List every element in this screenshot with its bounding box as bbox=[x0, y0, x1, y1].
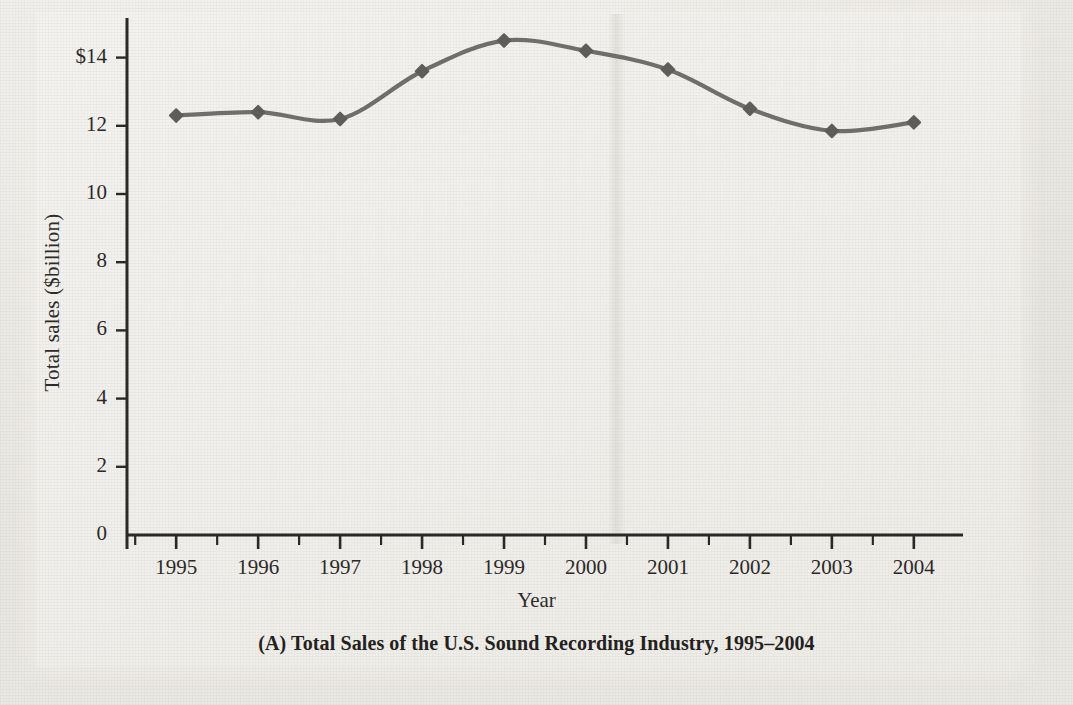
x-axis-title: Year bbox=[0, 588, 1073, 613]
data-point-marker bbox=[826, 125, 838, 137]
y-axis-ticks bbox=[116, 58, 127, 467]
data-point-marker bbox=[908, 116, 920, 128]
y-tick-label: 8 bbox=[7, 248, 107, 273]
y-tick-label: $14 bbox=[7, 44, 107, 69]
line-chart: Total sales ($billion) Year $14121086420… bbox=[0, 0, 1073, 705]
data-point-marker bbox=[252, 106, 264, 118]
y-tick-label: 12 bbox=[7, 112, 107, 137]
data-point-marker bbox=[498, 34, 510, 46]
y-tick-label: 6 bbox=[7, 316, 107, 341]
data-point-marker bbox=[662, 63, 674, 75]
y-tick-label: 4 bbox=[7, 385, 107, 410]
data-point-marker bbox=[580, 45, 592, 57]
data-point-marker bbox=[334, 113, 346, 125]
y-tick-label: 10 bbox=[7, 180, 107, 205]
x-tick-label: 2004 bbox=[864, 555, 964, 580]
data-point-marker bbox=[744, 103, 756, 115]
y-tick-label: 2 bbox=[7, 453, 107, 478]
figure-caption: (A) Total Sales of the U.S. Sound Record… bbox=[0, 632, 1073, 655]
y-tick-label: 0 bbox=[7, 521, 107, 546]
data-point-marker bbox=[170, 109, 182, 121]
data-series-line bbox=[176, 40, 914, 131]
data-point-markers bbox=[170, 34, 920, 137]
